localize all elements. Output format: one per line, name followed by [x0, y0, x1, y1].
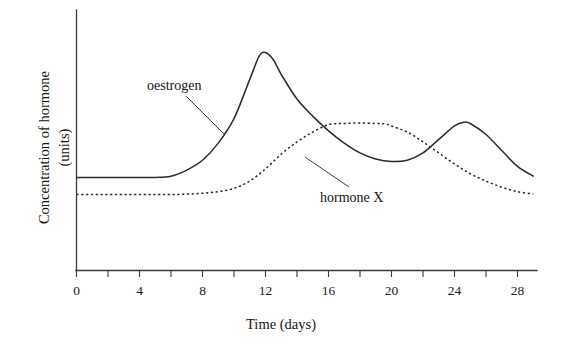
x-tick-label-24: 24: [439, 284, 470, 298]
x-tick-label-8: 8: [187, 284, 218, 298]
chart-figure: 0 4 8 12 16 20 24 28 Time (days) Concent…: [0, 0, 562, 355]
leader-line-hormone-x: [305, 157, 349, 187]
x-tick-label-4: 4: [124, 284, 155, 298]
x-axis-minor-ticks: [108, 271, 486, 278]
x-tick-label-28: 28: [502, 284, 533, 298]
y-axis-title: Concentration of hormone (units): [35, 33, 74, 263]
x-tick-label-20: 20: [376, 284, 407, 298]
x-tick-label-12: 12: [250, 284, 281, 298]
y-axis-title-line-1: Concentration of hormone: [35, 33, 55, 263]
x-axis-title: Time (days): [0, 316, 562, 333]
series-curve-oestrogen: [77, 52, 534, 177]
series-curve-hormone-x: [77, 123, 534, 195]
series-label-oestrogen: oestrogen: [147, 78, 201, 93]
x-tick-label-16: 16: [313, 284, 344, 298]
y-axis-title-line-2: (units): [55, 33, 75, 263]
leader-line-oestrogen: [186, 96, 224, 134]
series-label-hormone-x: hormone X: [320, 190, 383, 205]
x-tick-label-0: 0: [61, 284, 92, 298]
chart-plot-area: [0, 0, 562, 355]
